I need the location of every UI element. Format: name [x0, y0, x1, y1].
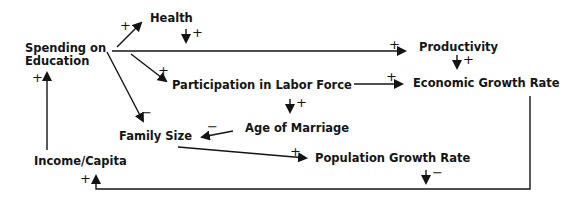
- sign-spending-familysize: −: [141, 106, 152, 119]
- sign-spending-productivity: +: [389, 38, 400, 51]
- sign-health-down: +: [192, 26, 203, 39]
- node-age-of-marriage: Age of Marriage: [245, 122, 349, 135]
- node-productivity: Productivity: [419, 41, 498, 54]
- node-economic-growth-rate: Economic Growth Rate: [413, 77, 560, 90]
- node-population-growth-rate: Population Growth Rate: [315, 152, 470, 165]
- sign-income-spending: +: [32, 71, 43, 84]
- sign-population-down: −: [432, 166, 443, 179]
- sign-familysize-population: +: [290, 145, 301, 158]
- node-spending-line2: Education: [25, 55, 106, 68]
- edge-familysize-population: [178, 147, 306, 158]
- sign-spending-participation: +: [158, 64, 169, 77]
- edge-spending-familysize: [107, 52, 143, 121]
- node-health: Health: [150, 12, 193, 25]
- sign-growth-income: +: [80, 172, 91, 185]
- node-family-size: Family Size: [119, 130, 192, 143]
- node-income-capita: Income/Capita: [34, 155, 127, 168]
- sign-productivity-down: +: [463, 53, 474, 66]
- node-spending-on-education: Spending on Education: [25, 42, 106, 68]
- sign-participation-growth: +: [386, 70, 397, 83]
- sign-participation-marriage: +: [296, 96, 307, 109]
- node-participation: Participation in Labor Force: [172, 79, 352, 92]
- sign-marriage-familysize: −: [207, 120, 218, 133]
- causal-loop-diagram: Spending on Education Health Productivit…: [0, 0, 588, 206]
- sign-spending-health: +: [120, 19, 131, 32]
